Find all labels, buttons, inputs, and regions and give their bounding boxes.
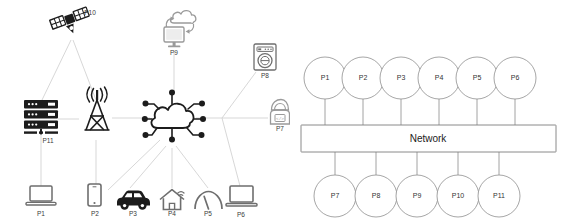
bus-node-p4: P4 xyxy=(418,57,460,99)
node-p2-smartphone: P2 xyxy=(88,184,101,217)
bus-node-p7: P7 xyxy=(314,175,356,217)
node-label-p10: P10 xyxy=(84,9,96,16)
node-p6-laptop: P6 xyxy=(226,186,257,218)
bus-node-label-p11: P11 xyxy=(493,192,505,199)
bus-node-label-p2: P2 xyxy=(359,74,368,81)
node-p8-washing-machine: P8 xyxy=(254,44,276,79)
node-p3-car: P3 xyxy=(117,191,150,217)
bus-topology-svg: Network P1 P2 P3 P4 xyxy=(290,0,574,224)
iot-device-topology-panel: P10 xyxy=(0,0,290,224)
bus-node-p2: P2 xyxy=(342,57,384,99)
node-label-p7: P7 xyxy=(276,125,284,132)
node-p9-monitor-cloud: P9 xyxy=(164,11,196,56)
node-label-p6: P6 xyxy=(237,211,245,218)
node-label-p2: P2 xyxy=(91,210,99,217)
node-label-p9: P9 xyxy=(170,49,178,56)
bus-node-label-p8: P8 xyxy=(372,192,381,199)
node-label-p11: P11 xyxy=(42,137,53,144)
network-bus-bar: Network xyxy=(301,125,556,152)
bus-node-p1: P1 xyxy=(304,57,346,99)
bus-node-label-p6: P6 xyxy=(511,74,520,81)
center-iot-cloud xyxy=(142,90,206,143)
node-p4-smart-home: P4 xyxy=(160,190,184,217)
bus-node-label-p9: P9 xyxy=(413,192,422,199)
svg-text:</>: </> xyxy=(276,116,284,121)
iot-topology-svg: P10 xyxy=(0,0,290,224)
bus-node-p11: P11 xyxy=(478,175,520,217)
relay-cell-tower xyxy=(85,87,110,130)
top-connection-stems xyxy=(325,99,515,126)
figure-root: P10 xyxy=(0,0,574,224)
bus-node-label-p4: P4 xyxy=(435,74,444,81)
node-p5-gauge: P5 xyxy=(195,192,222,217)
bus-node-p9: P9 xyxy=(396,175,438,217)
bus-node-p3: P3 xyxy=(380,57,422,99)
node-label-p8: P8 xyxy=(261,72,269,79)
node-p10-satellite: P10 xyxy=(49,6,96,39)
node-p7-hooded-person: </> P7 xyxy=(271,100,290,132)
bus-node-label-p3: P3 xyxy=(397,74,406,81)
bus-node-label-p1: P1 xyxy=(321,74,330,81)
node-label-p4: P4 xyxy=(168,210,176,217)
node-label-p5: P5 xyxy=(204,210,212,217)
node-label-p3: P3 xyxy=(129,210,137,217)
bus-node-p6: P6 xyxy=(494,57,536,99)
bus-node-label-p7: P7 xyxy=(331,192,340,199)
bus-node-p10: P10 xyxy=(437,175,479,217)
bottom-nodes: P7 P8 P9 P10 P11 xyxy=(314,175,520,217)
node-label-p1: P1 xyxy=(37,210,45,217)
network-bus-label: Network xyxy=(410,133,448,144)
top-nodes: P1 P2 P3 P4 P5 xyxy=(304,57,536,99)
bus-node-p5: P5 xyxy=(456,57,498,99)
network-bus-topology-panel: Network P1 P2 P3 P4 xyxy=(290,0,574,224)
bus-node-label-p10: P10 xyxy=(452,192,465,199)
node-p1-laptop: P1 xyxy=(26,186,56,217)
bus-node-p8: P8 xyxy=(355,175,397,217)
bus-node-label-p5: P5 xyxy=(473,74,482,81)
